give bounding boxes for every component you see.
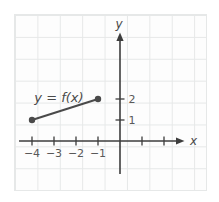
segment-endpoint-dot xyxy=(29,117,35,123)
x-tick-label: −1 xyxy=(90,147,106,160)
y-tick-label: 2 xyxy=(129,93,136,106)
y-axis-arrowhead-icon xyxy=(116,33,123,42)
y-axis-label: y xyxy=(114,17,123,31)
x-tick-label: −3 xyxy=(46,147,62,160)
x-tick-label: −4 xyxy=(24,147,40,160)
figure-canvas: x y y = f(x) −4−3−2−112 xyxy=(0,0,219,202)
y-tick-label: 1 xyxy=(129,114,136,127)
segment-endpoint-dot xyxy=(95,96,101,102)
coordinate-plane: x y y = f(x) −4−3−2−112 xyxy=(0,0,219,202)
curve-label: y = f(x) xyxy=(33,90,83,105)
x-axis-label: x xyxy=(189,134,198,148)
x-tick-label: −2 xyxy=(68,147,84,160)
x-axis-arrowhead-icon xyxy=(176,137,185,144)
